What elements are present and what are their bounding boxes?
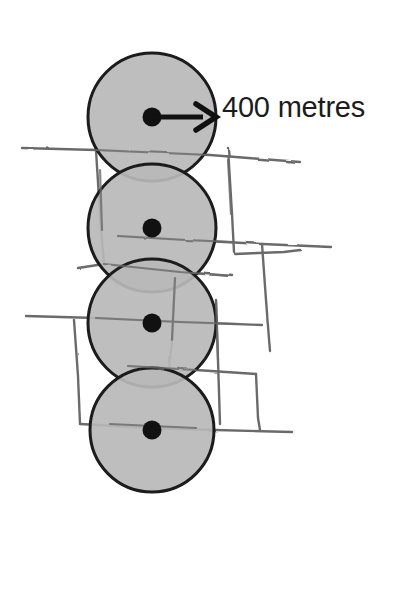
sketch-line <box>216 300 218 360</box>
sketch-line <box>74 320 80 424</box>
sketch-line <box>235 250 300 254</box>
diagram-canvas: 400 metres <box>0 0 398 608</box>
radius-label: 400 metres <box>222 90 365 124</box>
centre-dot-2 <box>143 219 162 238</box>
sketch-line <box>256 374 260 430</box>
centre-dot-4 <box>143 421 162 440</box>
sketch-line <box>228 160 231 214</box>
sketch-line <box>262 244 270 352</box>
centre-dot-3 <box>143 314 162 333</box>
